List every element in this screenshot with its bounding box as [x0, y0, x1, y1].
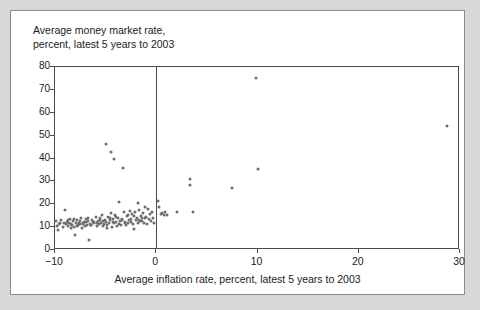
x-tick-mark	[155, 249, 156, 253]
scatter-point	[55, 219, 58, 222]
scatter-point	[137, 222, 140, 225]
x-axis-label: Average inflation rate, percent, latest …	[11, 273, 464, 285]
scatter-point	[143, 217, 146, 220]
scatter-point	[112, 221, 115, 224]
x-axis-tick-labels: −100102030	[54, 249, 459, 273]
y-tick-label: 0	[26, 243, 50, 254]
x-tick-mark	[54, 249, 55, 253]
scatter-point	[109, 212, 112, 215]
zero-reference-line	[156, 67, 157, 248]
scatter-point	[96, 222, 99, 225]
scatter-point	[84, 221, 87, 224]
y-tick-label: 30	[26, 174, 50, 185]
scatter-point	[151, 211, 154, 214]
scatter-point	[59, 221, 62, 224]
scatter-point	[109, 217, 112, 220]
scatter-point	[62, 226, 65, 229]
scatter-point	[69, 223, 72, 226]
scatter-point	[106, 223, 109, 226]
scatter-point	[88, 239, 91, 242]
x-tick-label: 0	[135, 255, 175, 267]
chart-title: Average money market rate, percent, late…	[33, 23, 174, 51]
scatter-point	[110, 151, 113, 154]
y-tick-label: 10	[26, 220, 50, 231]
x-tick-label: 10	[237, 255, 277, 267]
x-tick-label: −10	[34, 255, 74, 267]
scatter-point	[64, 209, 67, 212]
scatter-point	[57, 229, 60, 232]
y-tick-label: 80	[26, 60, 50, 71]
scatter-point	[138, 209, 141, 212]
scatter-point	[124, 220, 127, 223]
scatter-point	[110, 225, 113, 228]
scatter-point	[72, 218, 75, 221]
scatter-point	[100, 214, 103, 217]
scatter-point	[191, 211, 194, 214]
scatter-point	[140, 220, 143, 223]
scatter-point	[63, 222, 66, 225]
scatter-point	[146, 222, 149, 225]
scatter-point	[133, 210, 136, 213]
chart-card: Average money market rate, percent, late…	[10, 10, 465, 295]
scatter-point	[132, 227, 135, 230]
scatter-point	[166, 213, 169, 216]
scatter-point	[127, 214, 130, 217]
scatter-point	[147, 208, 150, 211]
scatter-point	[189, 184, 192, 187]
y-tick-label: 20	[26, 197, 50, 208]
y-tick-label: 50	[26, 129, 50, 140]
scatter-point	[133, 214, 136, 217]
scatter-point	[89, 224, 92, 227]
scatter-point	[131, 223, 134, 226]
scatter-point	[121, 167, 124, 170]
x-tick-mark	[358, 249, 359, 253]
scatter-point	[188, 178, 191, 181]
scatter-point	[66, 219, 69, 222]
scatter-point	[156, 200, 159, 203]
y-tick-label: 70	[26, 83, 50, 94]
scatter-point	[152, 216, 155, 219]
scatter-point	[105, 143, 108, 146]
scatter-point	[117, 200, 120, 203]
scatter-point	[175, 211, 178, 214]
scatter-point	[74, 234, 77, 237]
scatter-point	[136, 201, 139, 204]
scatter-point	[94, 216, 97, 219]
scatter-point	[102, 220, 105, 223]
scatter-point	[142, 211, 145, 214]
scatter-point	[445, 125, 448, 128]
x-tick-mark	[459, 249, 460, 253]
scatter-point	[130, 217, 133, 220]
scatter-point	[158, 205, 161, 208]
scatter-point	[75, 225, 78, 228]
x-tick-label: 20	[338, 255, 378, 267]
scatter-point	[115, 215, 118, 218]
x-tick-label: 30	[439, 255, 479, 267]
y-tick-label: 60	[26, 106, 50, 117]
scatter-point	[113, 158, 116, 161]
y-tick-label: 40	[26, 152, 50, 163]
scatter-point	[122, 211, 125, 214]
scatter-point	[118, 222, 121, 225]
scatter-point	[231, 187, 234, 190]
scatter-point	[86, 217, 89, 220]
scatter-point	[256, 167, 259, 170]
scatter-point	[105, 227, 108, 230]
y-axis-tick-labels: 01020304050607080	[24, 66, 50, 249]
scatter-point	[255, 77, 258, 80]
x-tick-mark	[257, 249, 258, 253]
plot-area	[54, 66, 459, 249]
scatter-point	[153, 222, 156, 225]
